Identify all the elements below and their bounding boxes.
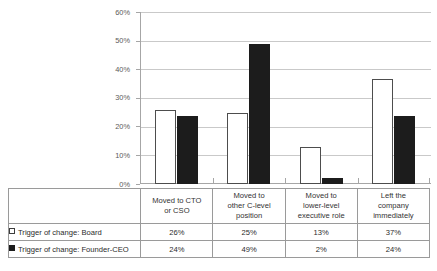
y-axis-label-10: 10% — [70, 152, 130, 159]
y-axis-label-60: 60% — [70, 9, 130, 16]
table-header-moved-to-lower-level-executive-role: Moved to lower-level executive role — [285, 189, 357, 224]
cell-board-1: 25% — [213, 224, 285, 241]
y-axis-label-20: 20% — [70, 123, 130, 130]
y-axis-label-50: 50% — [70, 37, 130, 44]
y-axis-tick-0 — [136, 184, 140, 185]
legend-label-founder-ceo: Trigger of change: Founder-CEO — [18, 245, 129, 254]
header-line-3: immediately — [358, 211, 429, 221]
bar-founder-3[interactable] — [394, 116, 415, 184]
legend-swatch-founder-ceo-icon — [9, 245, 15, 251]
header-line-2: other C-level — [213, 201, 284, 211]
legend-swatch-board-icon — [9, 228, 15, 234]
cell-founder-2: 2% — [285, 241, 357, 258]
cell-board-0: 26% — [141, 224, 213, 241]
bar-series-group — [140, 12, 430, 184]
y-axis-label-40: 40% — [70, 66, 130, 73]
category-separator-3 — [358, 178, 359, 184]
y-axis: 60% 50% 40% 30% 20% 10% 0% — [0, 0, 136, 190]
bar-group-moved-to-cto-or-cso — [140, 12, 213, 184]
header-line-1: Moved to — [286, 191, 357, 201]
legend-item-board[interactable]: Trigger of change: Board — [9, 224, 141, 241]
cell-founder-0: 24% — [141, 241, 213, 258]
legend-label-board: Trigger of change: Board — [18, 228, 102, 237]
header-line-2: or CSO — [141, 206, 212, 216]
table-header-moved-to-cto-or-cso: Moved to CTO or CSO — [141, 189, 213, 224]
table-header-moved-to-other-c-level-position: Moved to other C-level position — [213, 189, 285, 224]
header-line-1: Moved to — [213, 191, 284, 201]
table-header-corner — [9, 189, 141, 224]
category-separator-4 — [429, 178, 430, 184]
bar-chart: 60% 50% 40% 30% 20% 10% 0% — [0, 0, 437, 190]
bar-board-3[interactable] — [372, 79, 393, 184]
bar-board-0[interactable] — [155, 110, 176, 184]
category-separator-2 — [285, 178, 286, 184]
bar-founder-0[interactable] — [177, 116, 198, 184]
bar-board-2[interactable] — [300, 147, 321, 184]
header-line-1: Left the — [358, 191, 429, 201]
bar-founder-2[interactable] — [322, 178, 343, 184]
bar-group-moved-to-lower-level-executive-role — [285, 12, 358, 184]
category-separator-1 — [213, 178, 214, 184]
y-axis-label-30: 30% — [70, 94, 130, 101]
bar-board-1[interactable] — [227, 113, 248, 184]
chart-figure: 60% 50% 40% 30% 20% 10% 0% — [0, 0, 437, 271]
cell-board-2: 13% — [285, 224, 357, 241]
header-line-3: position — [213, 211, 284, 221]
cell-board-3: 37% — [357, 224, 429, 241]
cell-founder-1: 49% — [213, 241, 285, 258]
bar-group-moved-to-other-c-level-position — [213, 12, 286, 184]
header-line-1: Moved to CTO — [141, 196, 212, 206]
header-line-2: company — [358, 201, 429, 211]
table-header-row: Moved to CTO or CSO Moved to other C-lev… — [9, 189, 430, 224]
table-header-left-the-company-immediately: Left the company immediately — [357, 189, 429, 224]
legend-item-founder-ceo[interactable]: Trigger of change: Founder-CEO — [9, 241, 141, 258]
cell-founder-3: 24% — [357, 241, 429, 258]
bar-group-left-the-company-immediately — [358, 12, 431, 184]
bar-founder-1[interactable] — [249, 44, 270, 184]
table-row-founder-ceo: Trigger of change: Founder-CEO 24% 49% 2… — [9, 241, 430, 258]
header-line-2: lower-level — [286, 201, 357, 211]
header-line-3: executive role — [286, 211, 357, 221]
data-table: Moved to CTO or CSO Moved to other C-lev… — [8, 188, 430, 258]
table-row-board: Trigger of change: Board 26% 25% 13% 37% — [9, 224, 430, 241]
